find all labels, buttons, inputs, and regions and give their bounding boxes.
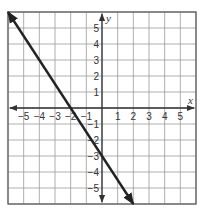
y-tick-label: −1 [88,119,100,130]
y-tick-label: 3 [93,55,99,66]
x-tick-label: −3 [49,111,61,122]
y-tick-label: 1 [93,87,99,98]
y-axis-label: y [105,12,111,24]
x-axis-label: x [187,94,193,106]
y-tick-label: 2 [93,71,99,82]
x-tick-label: 5 [178,111,184,122]
x-tick-label: 1 [115,111,121,122]
x-tick-label: 3 [146,111,152,122]
y-tick-label: −4 [88,167,100,178]
x-tick-label: −5 [18,111,30,122]
y-tick-label: 4 [93,39,99,50]
y-tick-label: −3 [88,151,100,162]
y-tick-label: 5 [93,23,99,34]
x-tick-label: 4 [162,111,168,122]
x-tick-label: 2 [131,111,137,122]
coordinate-plane: −5−4−3−2−11234554321−1−2−3−4−5 x y [0,0,205,215]
axes [10,14,194,202]
x-tick-label: −4 [34,111,46,122]
y-tick-label: −5 [88,183,100,194]
